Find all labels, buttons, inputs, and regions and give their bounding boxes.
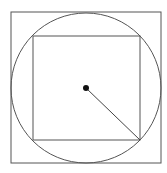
center-point <box>83 85 89 91</box>
geometry-diagram <box>0 0 167 173</box>
radius-line <box>86 88 140 140</box>
